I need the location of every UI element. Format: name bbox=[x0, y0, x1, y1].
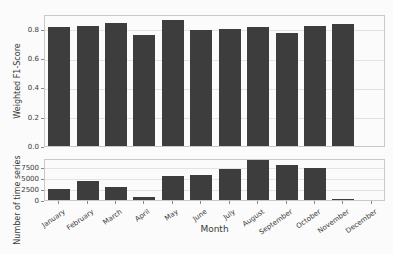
x-tick-mark bbox=[58, 201, 59, 204]
bar-june bbox=[190, 30, 212, 146]
y-tick-mark bbox=[41, 88, 44, 89]
bar-july bbox=[219, 29, 241, 146]
bar-october bbox=[304, 26, 326, 146]
x-tick-mark bbox=[115, 201, 116, 204]
y-tick-mark bbox=[41, 118, 44, 119]
gridline bbox=[45, 168, 384, 169]
bar-september bbox=[276, 33, 298, 146]
bar-may bbox=[162, 20, 184, 146]
y-tick-mark bbox=[41, 190, 44, 191]
bar-january bbox=[48, 189, 70, 200]
bar-march bbox=[105, 23, 127, 146]
figure: Weighted F1-Score Number of time series … bbox=[0, 0, 393, 254]
x-tick-mark bbox=[172, 201, 173, 204]
ytick-label: 0.6 bbox=[0, 55, 39, 63]
ytick-label: 0 bbox=[0, 197, 39, 205]
bar-may bbox=[162, 176, 184, 200]
ytick-label: 2500 bbox=[0, 186, 39, 194]
bar-august bbox=[247, 160, 269, 200]
ytick-label: 0.4 bbox=[0, 84, 39, 92]
x-tick-mark bbox=[342, 201, 343, 204]
x-tick-mark bbox=[87, 201, 88, 204]
time-series-count-axes bbox=[44, 159, 385, 201]
bar-february bbox=[77, 26, 99, 146]
xtick-label-may: May bbox=[164, 208, 180, 223]
bar-april bbox=[133, 35, 155, 146]
x-tick-mark bbox=[257, 201, 258, 204]
xtick-label-june: June bbox=[192, 208, 209, 223]
ytick-label: 0.8 bbox=[0, 26, 39, 34]
xtick-label-april: April bbox=[134, 208, 152, 224]
xtick-label-july: July bbox=[222, 208, 237, 222]
x-tick-mark bbox=[286, 201, 287, 204]
ytick-label: 0.0 bbox=[0, 143, 39, 151]
f1-score-axes bbox=[44, 15, 385, 147]
bar-november bbox=[332, 199, 354, 200]
x-tick-mark bbox=[371, 201, 372, 204]
bar-january bbox=[48, 27, 70, 146]
x-tick-mark bbox=[143, 201, 144, 204]
x-tick-mark bbox=[314, 201, 315, 204]
y-tick-mark bbox=[41, 168, 44, 169]
x-tick-mark bbox=[200, 201, 201, 204]
bar-june bbox=[190, 175, 212, 200]
bar-april bbox=[133, 197, 155, 200]
bar-october bbox=[304, 168, 326, 200]
bar-november bbox=[332, 24, 354, 146]
bar-august bbox=[247, 27, 269, 146]
ytick-label: 5000 bbox=[0, 175, 39, 183]
bar-march bbox=[105, 187, 127, 200]
x-tick-mark bbox=[229, 201, 230, 204]
bar-september bbox=[276, 165, 298, 200]
bar-february bbox=[77, 181, 99, 200]
bar-july bbox=[219, 169, 241, 200]
y-tick-mark bbox=[41, 201, 44, 202]
ytick-label: 0.2 bbox=[0, 114, 39, 122]
y-tick-mark bbox=[41, 30, 44, 31]
y-tick-mark bbox=[41, 147, 44, 148]
y-tick-mark bbox=[41, 179, 44, 180]
ytick-label: 7500 bbox=[0, 164, 39, 172]
y-tick-mark bbox=[41, 59, 44, 60]
